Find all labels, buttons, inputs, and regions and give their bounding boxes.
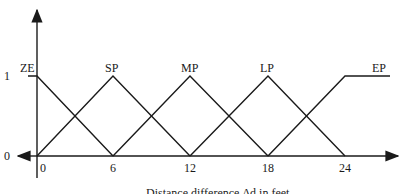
x-axis-label: Distance difference Δd in feet <box>146 186 290 194</box>
x-tick-12: 12 <box>184 161 196 175</box>
x-tick-24: 24 <box>339 161 351 175</box>
x-tick-6: 6 <box>110 161 116 175</box>
label-ze: ZE <box>20 61 35 75</box>
curve-mp <box>113 76 268 156</box>
curve-ze <box>28 76 113 156</box>
y-tick-1: 1 <box>4 69 10 83</box>
curve-ep <box>268 76 390 156</box>
label-ep: EP <box>372 61 386 75</box>
x-tick-18: 18 <box>262 161 274 175</box>
curve-lp <box>190 76 345 156</box>
x-tick-0: 0 <box>40 161 46 175</box>
curve-sp <box>37 76 190 156</box>
label-lp: LP <box>260 61 274 75</box>
label-sp: SP <box>105 61 119 75</box>
y-tick-0: 0 <box>4 149 10 163</box>
label-mp: MP <box>181 61 199 75</box>
membership-function-diagram: ZE SP MP LP EP 1 0 0 6 12 18 24 Distance… <box>0 0 410 194</box>
